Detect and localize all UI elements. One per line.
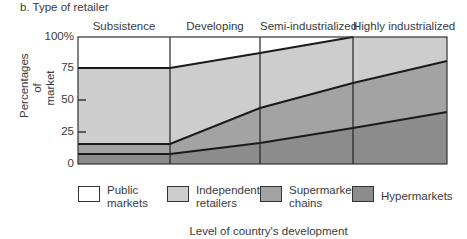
legend-swatch-public-markets — [78, 186, 100, 202]
legend-label-line: retailers — [196, 197, 260, 210]
legend-label: Independent retailers — [196, 184, 260, 210]
x-axis-label: Level of country's development — [0, 225, 467, 237]
legend-hypermarkets: Hypermarkets — [352, 184, 453, 203]
legend-label-line: Hypermarkets — [381, 190, 453, 203]
legend-label: Hypermarkets — [381, 184, 453, 203]
legend-label-line: Public — [107, 184, 148, 197]
legend-supermarket-chains: Supermarket chains — [260, 184, 355, 210]
legend-swatch-independent-retailers — [167, 186, 189, 202]
legend-label-line: Independent — [196, 184, 260, 197]
legend-label-line: Supermarket — [289, 184, 355, 197]
legend-public-markets: Public markets — [78, 184, 148, 210]
legend-swatch-hypermarkets — [352, 186, 374, 202]
legend-independent-retailers: Independent retailers — [167, 184, 260, 210]
legend-swatch-supermarket-chains — [260, 186, 282, 202]
legend-label: Supermarket chains — [289, 184, 355, 210]
legend-label: Public markets — [107, 184, 148, 210]
legend-label-line: chains — [289, 197, 355, 210]
legend-label-line: markets — [107, 197, 148, 210]
